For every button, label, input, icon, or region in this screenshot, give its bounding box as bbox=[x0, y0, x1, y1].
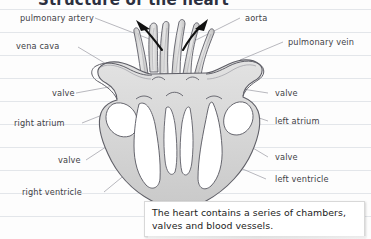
label-left-atrium: left atrium bbox=[275, 117, 320, 125]
label-pulmonary-vein: pulmonary vein bbox=[288, 38, 354, 46]
label-aorta: aorta bbox=[245, 14, 267, 22]
caption-card: The heart contains a series of chambers,… bbox=[144, 201, 365, 237]
label-vena-cava: vena cava bbox=[16, 42, 59, 50]
caption-card-shadow bbox=[148, 236, 366, 239]
worksheet-page: Structure of the heart bbox=[0, 0, 371, 239]
label-right-atrium: right atrium bbox=[14, 119, 65, 127]
label-valve-upper-left: valve bbox=[52, 89, 75, 97]
label-left-ventricle: left ventricle bbox=[275, 175, 329, 183]
label-pulmonary-artery: pulmonary artery bbox=[20, 14, 94, 22]
caption-text: The heart contains a series of chambers,… bbox=[152, 206, 360, 232]
label-valve-lower-right: valve bbox=[275, 153, 298, 161]
label-right-ventricle: right ventricle bbox=[22, 188, 82, 196]
label-valve-upper-right: valve bbox=[275, 89, 298, 97]
label-valve-lower-left: valve bbox=[58, 156, 81, 164]
